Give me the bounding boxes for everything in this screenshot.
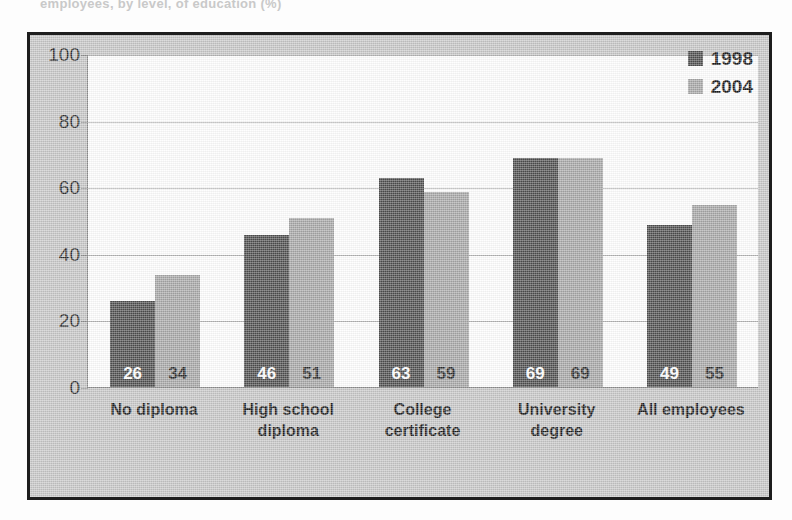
bar-value-label: 34 [155, 365, 200, 382]
category-label-no-diploma: No diploma [87, 399, 221, 420]
bar-1998-college-certificate: 63 [379, 178, 424, 388]
category-label-line: degree [490, 420, 624, 441]
x-axis-baseline [88, 387, 758, 389]
legend-item-2004[interactable]: 2004 [688, 77, 753, 96]
y-axis-label-40: 40 [30, 244, 80, 266]
gridline-100 [88, 55, 758, 56]
bar-2004-university-degree: 69 [558, 158, 603, 388]
chart-legend: 19982004 [688, 49, 753, 96]
y-axis-label-100: 100 [30, 44, 80, 66]
bar-2004-high-school-diploma: 51 [289, 218, 334, 388]
chart-frame: 26466369493451596955 020406080100 199820… [27, 32, 772, 500]
bar-value-label: 69 [558, 365, 603, 382]
y-tick-40 [81, 255, 88, 256]
gridline-80 [88, 122, 758, 123]
bar-2004-college-certificate: 59 [424, 192, 469, 388]
bar-1998-university-degree: 69 [513, 158, 558, 388]
category-label-line: College [355, 399, 489, 420]
category-label-line: University [490, 399, 624, 420]
legend-label-2004: 2004 [711, 77, 753, 96]
y-axis-label-60: 60 [30, 177, 80, 199]
y-tick-60 [81, 188, 88, 189]
bar-value-label: 46 [244, 365, 289, 382]
bar-value-label: 26 [110, 365, 155, 382]
category-label-line: diploma [221, 420, 355, 441]
cut-off-caption-text: employees, by level, of education (%) [0, 0, 792, 14]
category-label-line: No diploma [87, 399, 221, 420]
category-label-line: High school [221, 399, 355, 420]
plot-area: 26466369493451596955 [87, 55, 758, 388]
bar-2004-no-diploma: 34 [155, 275, 200, 388]
y-tick-0 [81, 388, 88, 389]
y-tick-20 [81, 321, 88, 322]
bar-value-label: 69 [513, 365, 558, 382]
y-axis-label-0: 0 [30, 377, 80, 399]
bar-value-label: 49 [647, 365, 692, 382]
category-label-university-degree: Universitydegree [490, 399, 624, 441]
y-axis-label-20: 20 [30, 310, 80, 332]
bar-value-label: 63 [379, 365, 424, 382]
bar-value-label: 51 [289, 365, 334, 382]
legend-swatch-icon-1998 [688, 51, 703, 66]
y-tick-80 [81, 122, 88, 123]
bar-1998-high-school-diploma: 46 [244, 235, 289, 388]
bar-1998-no-diploma: 26 [110, 301, 155, 388]
y-axis-label-80: 80 [30, 111, 80, 133]
category-label-line: certificate [355, 420, 489, 441]
bar-value-label: 59 [424, 365, 469, 382]
category-label-line: All employees [624, 399, 758, 420]
bar-2004-all-employees: 55 [692, 205, 737, 388]
category-label-high-school-diploma: High schooldiploma [221, 399, 355, 441]
bar-1998-all-employees: 49 [647, 225, 692, 388]
category-label-college-certificate: Collegecertificate [355, 399, 489, 441]
legend-label-1998: 1998 [711, 49, 753, 68]
x-axis-category-labels: No diplomaHigh schooldiplomaCollegecerti… [87, 399, 758, 459]
bar-value-label: 55 [692, 365, 737, 382]
y-tick-100 [81, 55, 88, 56]
legend-swatch-icon-2004 [688, 79, 703, 94]
legend-item-1998[interactable]: 1998 [688, 49, 753, 68]
category-label-all-employees: All employees [624, 399, 758, 420]
